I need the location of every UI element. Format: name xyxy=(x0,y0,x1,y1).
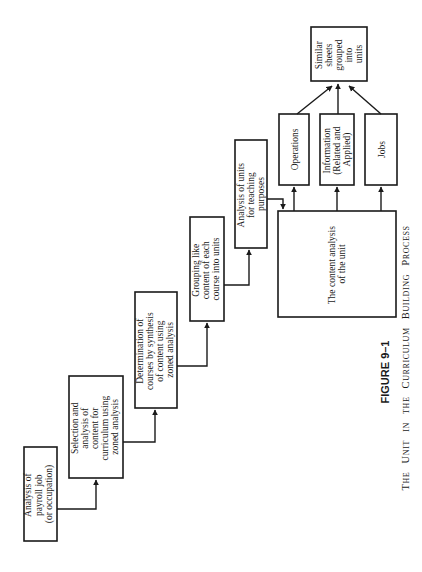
step-box-selection-and-analysis: Selection and analysis of content for cu… xyxy=(69,376,123,478)
connector-arrow-4-5 xyxy=(224,250,249,285)
arrow-jobs-to-result xyxy=(349,86,381,114)
step-box-analysis-of-payroll-job: Analysis of payroll job (or occupation) xyxy=(23,447,57,541)
operations-box: Operations xyxy=(279,114,309,185)
figure-caption: THE UNIT IN THE CURRICULUM BUILDING PROC… xyxy=(400,225,411,490)
arrow-operations-to-result xyxy=(297,86,332,114)
connector-arrow-3-4 xyxy=(177,323,207,366)
connector-arrow-2-3 xyxy=(123,410,155,442)
step-1-label: Analysis of payroll job (or occupation) xyxy=(23,465,55,523)
figure-number: FIGURE 9–1 xyxy=(379,341,391,404)
step-box-analysis-of-units: Analysis of units for teaching purposes xyxy=(235,140,267,248)
step-4-label: Grouping like content of each course int… xyxy=(191,237,221,300)
information-box: Information (Related and Applied) xyxy=(320,114,354,185)
curriculum-flow-diagram: Analysis of payroll job (or occupation) … xyxy=(0,0,422,572)
similar-sheets-box: Similar sheets grouped into units xyxy=(311,27,367,81)
step-box-determination-of-courses: Determination of courses by synthesis of… xyxy=(135,292,177,408)
jobs-box: Jobs xyxy=(365,114,397,185)
step-box-grouping-like-content: Grouping like content of each course int… xyxy=(190,217,224,321)
operations-label: Operations xyxy=(290,128,300,170)
connector-arrow-1-2 xyxy=(57,480,96,509)
connector-arrow-5-content xyxy=(267,199,283,209)
jobs-label: Jobs xyxy=(377,141,387,158)
content-analysis-box: The content analysis of the unit xyxy=(278,211,396,317)
